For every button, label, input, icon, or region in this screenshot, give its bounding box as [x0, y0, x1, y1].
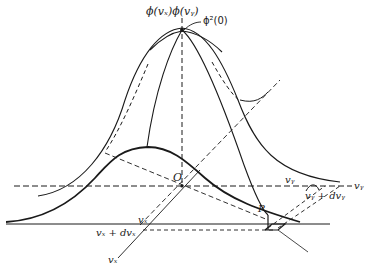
slice-curve-right	[182, 30, 268, 215]
label-vx-axis: vₓ	[108, 255, 117, 265]
outer-bell-curve	[38, 28, 340, 196]
gaussian-vx-outline	[6, 147, 300, 222]
origin-point	[180, 184, 183, 187]
vx-axis-line	[118, 170, 200, 258]
maxwell-distribution-diagram: ϕ(vₓ)ϕ(vᵧ) ϕ²(0) O P vᵧ vᵧ vᵧ + dvᵧ vₓ v…	[0, 0, 369, 271]
left-dashed-curve	[105, 64, 148, 152]
diagram-canvas	[0, 0, 369, 271]
label-vx: vₓ	[138, 215, 147, 225]
label-vy: vᵧ	[285, 175, 294, 185]
label-origin: O	[173, 172, 182, 183]
label-peak: ϕ²(0)	[203, 16, 228, 26]
label-p: P	[258, 204, 265, 214]
label-product: ϕ(vₓ)ϕ(vᵧ)	[146, 6, 199, 17]
peak-point	[180, 28, 184, 32]
lower-right-line	[278, 230, 308, 252]
label-vy-plus-dvy: vᵧ + dvᵧ	[305, 191, 345, 201]
label-vy-axis: vᵧ	[354, 181, 363, 191]
label-vx-plus-dvx: vₓ + dvₓ	[96, 228, 136, 238]
